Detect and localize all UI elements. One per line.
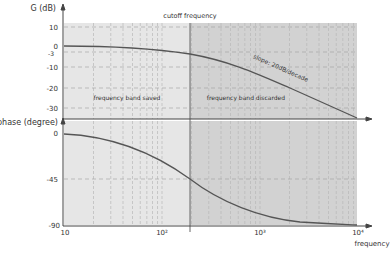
- cutoff-label: cutoff frequency: [163, 12, 217, 20]
- svg-text:-30: -30: [47, 105, 58, 113]
- x-axis-label: frequency: [354, 240, 389, 248]
- band-saved-label: frequency band saved: [94, 94, 161, 102]
- svg-text:-45: -45: [47, 176, 58, 184]
- svg-text:10³: 10³: [254, 229, 266, 237]
- band-saved-phase: [64, 121, 190, 225]
- bode-plot: G (dB) phase (degree) cutoff frequency f…: [0, 0, 390, 256]
- band-discarded-gain: [190, 23, 357, 119]
- svg-text:-3: -3: [48, 50, 54, 57]
- svg-text:10⁴: 10⁴: [352, 229, 364, 237]
- gain-tick-labels: 10 0 -3 -10 -20 -30: [47, 24, 58, 113]
- x-tick-labels: 10 10² 10³ 10⁴: [61, 229, 365, 237]
- band-discarded-label: frequency band discarded: [207, 94, 285, 102]
- svg-text:-10: -10: [47, 64, 58, 72]
- svg-text:0: 0: [54, 43, 58, 51]
- svg-text:10: 10: [61, 229, 70, 237]
- phase-tick-labels: 0 -45 -90: [47, 130, 60, 230]
- svg-text:-90: -90: [49, 222, 60, 230]
- band-discarded-phase: [190, 121, 357, 225]
- svg-text:-20: -20: [47, 85, 58, 93]
- svg-text:0: 0: [54, 130, 58, 138]
- svg-text:10²: 10²: [156, 229, 168, 237]
- gain-axis-label: G (dB): [30, 4, 56, 13]
- svg-text:10: 10: [49, 24, 58, 32]
- band-saved-gain: [64, 23, 190, 119]
- phase-axis-label: phase (degree): [0, 118, 58, 127]
